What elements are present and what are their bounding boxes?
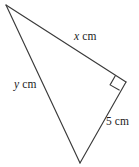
label-side-x-unit: cm — [82, 30, 96, 42]
label-side-y: y cm — [14, 79, 36, 91]
label-side-y-unit: cm — [22, 78, 36, 90]
label-side-five-unit: cm — [115, 115, 129, 127]
triangle-figure: x cm y cm 5 cm — [0, 0, 139, 167]
label-side-five-value: 5 — [106, 115, 112, 127]
label-side-x: x cm — [74, 31, 96, 43]
label-side-five: 5 cm — [106, 116, 129, 128]
